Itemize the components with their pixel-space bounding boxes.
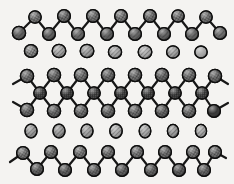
atom-upper-isolated-sphere-row-atoms-4 bbox=[138, 45, 152, 58]
structure-diagram-svg bbox=[0, 0, 234, 184]
atom-upper-zigzag-chain-upper_atoms-4 bbox=[144, 10, 157, 23]
atom-upper-isolated-sphere-row-atoms-0 bbox=[24, 45, 37, 58]
atom-middle-ladder-chain-bridge_atoms-1 bbox=[61, 87, 73, 99]
atom-upper-zigzag-chain-lower_atoms-0 bbox=[12, 26, 25, 39]
atom-upper-zigzag-chain-lower_atoms-5 bbox=[158, 28, 171, 41]
atom-middle-ladder-chain-upper_atoms-7 bbox=[208, 69, 221, 82]
atom-middle-ladder-chain-upper_atoms-4 bbox=[128, 68, 141, 81]
atom-upper-isolated-sphere-row-atoms-6 bbox=[195, 46, 207, 58]
atom-middle-ladder-chain-bridge_atoms-0 bbox=[34, 87, 46, 99]
atom-lower-zigzag-chain-upper_atoms-2 bbox=[74, 146, 87, 159]
atom-lower-isolated-sphere-row-atoms-6 bbox=[195, 124, 206, 137]
atom-lower-isolated-sphere-row-atoms-0 bbox=[25, 124, 37, 138]
atom-upper-zigzag-chain-lower_atoms-4 bbox=[129, 28, 142, 41]
atom-upper-isolated-sphere-row-atoms-3 bbox=[108, 46, 121, 59]
atom-lower-zigzag-chain-upper_atoms-4 bbox=[131, 146, 144, 159]
atom-lower-zigzag-chain-upper_atoms-7 bbox=[209, 146, 222, 159]
atom-middle-ladder-chain-lower_atoms-2 bbox=[74, 104, 87, 117]
figure-canvas: Polymeric chain structures diagram Three… bbox=[0, 0, 234, 184]
atom-upper-isolated-sphere-row-atoms-2 bbox=[80, 44, 94, 57]
atom-middle-ladder-chain-upper_atoms-2 bbox=[74, 68, 87, 81]
atom-upper-zigzag-chain-upper_atoms-0 bbox=[29, 11, 41, 23]
atom-middle-ladder-chain-lower_atoms-4 bbox=[128, 104, 141, 117]
atom-lower-isolated-sphere-row-atoms-2 bbox=[81, 124, 93, 138]
atom-upper-isolated-sphere-row-atoms-5 bbox=[167, 46, 180, 58]
atom-upper-zigzag-chain-lower_atoms-2 bbox=[72, 28, 85, 41]
atom-lower-zigzag-chain-lower_atoms-6 bbox=[198, 164, 211, 177]
atom-upper-zigzag-chain-upper_atoms-3 bbox=[115, 10, 128, 23]
atom-middle-ladder-chain-upper_atoms-3 bbox=[101, 68, 114, 81]
atom-lower-zigzag-chain-upper_atoms-0 bbox=[17, 147, 30, 160]
atom-middle-ladder-chain-upper_atoms-1 bbox=[47, 68, 60, 81]
atom-middle-ladder-chain-bridge_atoms-6 bbox=[196, 87, 208, 99]
atom-lower-zigzag-chain-lower_atoms-1 bbox=[59, 164, 72, 177]
atom-lower-isolated-sphere-row-atoms-3 bbox=[110, 124, 122, 138]
atom-middle-ladder-chain-upper_atoms-5 bbox=[155, 68, 168, 81]
atom-middle-ladder-chain-lower_atoms-7 bbox=[208, 105, 221, 118]
atom-lower-zigzag-chain-upper_atoms-3 bbox=[102, 146, 115, 159]
atom-lower-zigzag-chain-lower_atoms-5 bbox=[173, 164, 186, 177]
atom-middle-ladder-chain-lower_atoms-3 bbox=[101, 104, 114, 117]
atom-upper-zigzag-chain-lower_atoms-7 bbox=[214, 27, 227, 40]
atom-upper-zigzag-chain-upper_atoms-6 bbox=[200, 11, 212, 23]
atom-lower-zigzag-chain-upper_atoms-5 bbox=[159, 146, 172, 159]
atom-lower-zigzag-chain-upper_atoms-1 bbox=[45, 146, 58, 159]
atom-middle-ladder-chain-lower_atoms-0 bbox=[20, 103, 33, 116]
atom-middle-ladder-chain-upper_atoms-6 bbox=[182, 68, 195, 81]
atom-lower-zigzag-chain-lower_atoms-4 bbox=[145, 164, 158, 177]
atom-lower-isolated-sphere-row-atoms-5 bbox=[167, 124, 178, 137]
atom-middle-ladder-chain-bridge_atoms-3 bbox=[115, 87, 127, 99]
atom-lower-isolated-sphere-row-atoms-4 bbox=[139, 124, 151, 138]
atom-lower-zigzag-chain-lower_atoms-3 bbox=[116, 164, 129, 177]
atom-lower-zigzag-chain-lower_atoms-2 bbox=[88, 164, 101, 177]
atom-lower-zigzag-chain-lower_atoms-0 bbox=[31, 163, 44, 176]
atom-middle-ladder-chain-bridge_atoms-5 bbox=[169, 87, 181, 99]
atom-upper-isolated-sphere-row-atoms-1 bbox=[52, 44, 66, 57]
atom-upper-zigzag-chain-upper_atoms-5 bbox=[172, 10, 184, 22]
atom-lower-zigzag-chain-upper_atoms-6 bbox=[187, 146, 200, 159]
atom-upper-zigzag-chain-upper_atoms-1 bbox=[58, 10, 71, 23]
atom-middle-ladder-chain-lower_atoms-5 bbox=[155, 104, 168, 117]
atom-middle-ladder-chain-upper_atoms-0 bbox=[20, 69, 33, 82]
atom-middle-ladder-chain-bridge_atoms-4 bbox=[142, 87, 154, 99]
atom-upper-zigzag-chain-upper_atoms-2 bbox=[87, 10, 100, 23]
atom-middle-ladder-chain-lower_atoms-1 bbox=[47, 104, 60, 117]
atom-middle-ladder-chain-lower_atoms-6 bbox=[182, 104, 195, 117]
atom-upper-zigzag-chain-lower_atoms-1 bbox=[43, 28, 56, 41]
atom-middle-ladder-chain-bridge_atoms-2 bbox=[88, 87, 100, 99]
atom-upper-zigzag-chain-lower_atoms-3 bbox=[101, 28, 114, 41]
atom-upper-zigzag-chain-lower_atoms-6 bbox=[186, 28, 199, 41]
atom-lower-isolated-sphere-row-atoms-1 bbox=[53, 124, 65, 138]
